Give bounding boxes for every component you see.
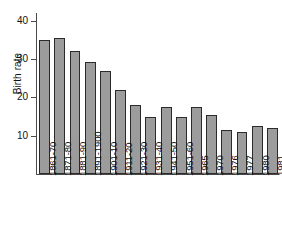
x-tick-label: 1911-20 — [124, 143, 134, 176]
x-tick-label: 1931-40 — [154, 142, 164, 176]
y-tick-label: 30 — [17, 53, 28, 64]
x-tick-label: 1976 — [230, 155, 240, 176]
x-tick-label: 1941-50 — [169, 142, 179, 176]
x-axis-labels: 1861-701871-801881-901891-19001901-10191… — [37, 176, 280, 245]
x-tick-label: 1981 — [276, 155, 282, 176]
x-tick-label: 1881-90 — [78, 142, 88, 176]
x-tick-label: 1951-60 — [185, 142, 195, 176]
y-tick-label: 20 — [17, 91, 28, 102]
x-tick-label: 1891-1900 — [93, 131, 103, 176]
x-tick-label: 1901-10 — [109, 142, 119, 176]
birth-rate-bar-chart: Birth rate 10203040 1861-701871-801881-9… — [0, 0, 282, 245]
x-tick-label: 1980 — [261, 155, 271, 176]
x-tick-label: 1965 — [200, 155, 210, 176]
x-tick-label: 1861-70 — [48, 142, 58, 176]
x-tick-label: 1977 — [245, 155, 255, 176]
y-tick-label: 10 — [17, 130, 28, 141]
y-axis-title: Birth rate — [12, 24, 23, 124]
x-tick-label: 1871-80 — [63, 142, 73, 176]
x-tick-label: 1970 — [215, 155, 225, 176]
y-tick-label: 40 — [17, 15, 28, 26]
x-tick-label: 1921-30 — [139, 142, 149, 176]
